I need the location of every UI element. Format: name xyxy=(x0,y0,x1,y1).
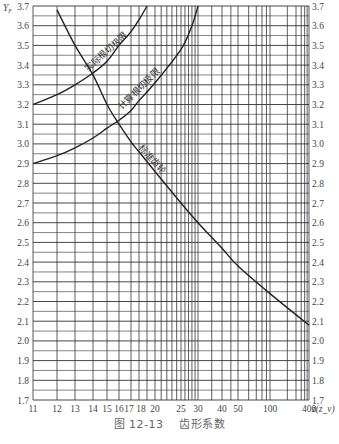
x-tick: 18 xyxy=(136,404,146,414)
x-tick: 14 xyxy=(88,404,98,414)
x-tick: 13 xyxy=(70,404,80,414)
y-tick-right: 1.8 xyxy=(312,376,324,386)
x-tick: 17 xyxy=(124,404,134,414)
x-tick: 16 xyxy=(114,404,124,414)
y-tick-right: 2.2 xyxy=(312,297,324,307)
tooth-form-factor-chart: 实际根切极限计算根切极限标准齿轮 1.71.71.81.81.91.92.02.… xyxy=(0,0,339,444)
y-tick-right: 1.9 xyxy=(312,356,324,366)
y-tick-left: 2.9 xyxy=(17,159,29,169)
y-tick-left: 3.1 xyxy=(17,120,29,130)
y-tick-left: 1.7 xyxy=(17,396,29,406)
figure-caption: 图 12-13 齿形系数 xyxy=(0,415,339,431)
x-tick: 20 xyxy=(150,404,160,414)
y-tick-right: 2.7 xyxy=(312,199,324,209)
y-tick-right: 2.9 xyxy=(312,159,324,169)
x-tick: 50 xyxy=(233,404,243,414)
y-tick-right: 2.8 xyxy=(312,179,324,189)
y-tick-right: 3.0 xyxy=(312,139,324,149)
y-tick-left: 2.3 xyxy=(17,277,29,287)
y-tick-right: 2.6 xyxy=(312,218,324,228)
x-tick: 40 xyxy=(217,404,227,414)
x-tick: 12 xyxy=(52,404,62,414)
y-tick-left: 2.2 xyxy=(17,297,29,307)
x-tick: 25 xyxy=(176,404,186,414)
y-tick-left: 2.6 xyxy=(17,218,29,228)
y-axis-label: YF xyxy=(3,3,12,14)
y-tick-left: 3.6 xyxy=(17,21,29,31)
standard-gear-label: 标准齿轮 xyxy=(137,142,169,176)
figure-number: 图 12-13 xyxy=(114,418,164,431)
y-tick-right: 3.1 xyxy=(312,120,324,130)
y-tick-left: 3.4 xyxy=(17,61,29,71)
y-tick-left: 3.2 xyxy=(17,100,29,110)
y-tick-right: 2.1 xyxy=(312,317,324,327)
y-tick-right: 3.6 xyxy=(312,21,324,31)
y-tick-right: 3.5 xyxy=(312,41,324,51)
curves xyxy=(33,6,309,325)
y-tick-left: 2.1 xyxy=(17,317,29,327)
y-tick-left: 3.5 xyxy=(17,41,29,51)
y-tick-left: 1.9 xyxy=(17,356,29,366)
y-tick-left: 2.0 xyxy=(17,336,29,346)
y-tick-left: 1.8 xyxy=(17,376,29,386)
y-tick-left: 2.4 xyxy=(17,258,29,268)
y-tick-left: 2.7 xyxy=(17,199,29,209)
curve-labels: 实际根切极限计算根切极限标准齿轮 xyxy=(82,29,169,176)
y-tick-left: 2.8 xyxy=(17,179,29,189)
y-tick-right: 3.2 xyxy=(312,100,324,110)
y-tick-right: 2.0 xyxy=(312,336,324,346)
grid xyxy=(33,6,309,400)
x-tick: 100 xyxy=(263,404,278,414)
y-tick-left: 3.3 xyxy=(17,80,29,90)
y-tick-right: 2.4 xyxy=(312,258,324,268)
x-tick: 15 xyxy=(102,404,112,414)
x-axis-label: z(z_v) xyxy=(311,404,335,415)
y-tick-right: 3.3 xyxy=(312,80,324,90)
y-tick-right: 2.3 xyxy=(312,277,324,287)
x-tick: 30 xyxy=(193,404,203,414)
y-tick-left: 2.5 xyxy=(17,238,29,248)
y-tick-left: 3.7 xyxy=(17,2,29,12)
figure-title: 齿形系数 xyxy=(179,418,225,431)
y-tick-right: 3.4 xyxy=(312,61,324,71)
x-tick: 11 xyxy=(28,404,37,414)
y-tick-right: 3.7 xyxy=(312,2,324,12)
y-tick-right: 2.5 xyxy=(312,238,324,248)
y-tick-left: 3.0 xyxy=(17,139,29,149)
